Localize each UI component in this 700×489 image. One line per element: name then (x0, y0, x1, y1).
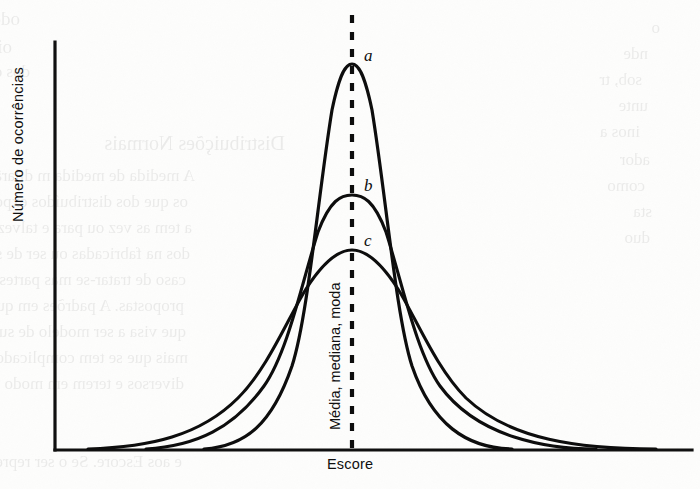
curve-c (88, 250, 656, 449)
figure-page: odelo. Dois, em dela eoisa de um monte d… (0, 0, 700, 489)
curve-label-b: b (364, 176, 373, 196)
mean-median-mode-label: Média, mediana, moda (327, 283, 343, 431)
curve-label-c: c (364, 231, 372, 251)
y-axis-label: Número de ocorrências (10, 67, 26, 222)
curve-label-a: a (364, 46, 373, 66)
curve-a (204, 64, 512, 449)
normal-distributions-plot (0, 0, 700, 489)
x-axis-label: Escore (327, 456, 373, 472)
